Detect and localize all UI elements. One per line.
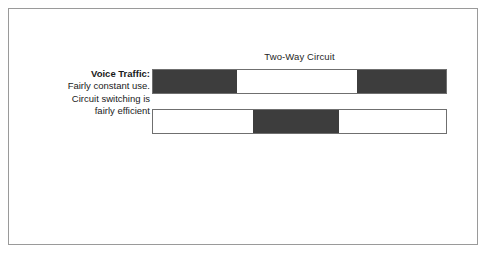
voice-traffic-line-3: fairly efficient [25,105,150,117]
voice-circuit-bar-direction-1 [152,69,447,94]
figure-frame: Two-Way Circuit Voice Traffic: Fairly co… [8,8,478,245]
voice-circuit-heading: Two-Way Circuit [152,51,447,62]
voice-traffic-title: Voice Traffic: [25,68,150,80]
voice-circuit-bar-direction-2 [152,109,447,134]
busy-segment [357,70,446,93]
voice-traffic-panel: Two-Way Circuit Voice Traffic: Fairly co… [9,25,477,125]
voice-traffic-line-2: Circuit switching is [25,93,150,105]
data-traffic-panel: Two-Way Circuit Data Traffic: Short burs… [9,135,477,235]
voice-traffic-line-1: Fairly constant use. [25,80,150,92]
busy-segment [253,110,339,133]
circuit-utilization-figure: Two-Way Circuit Voice Traffic: Fairly co… [0,0,487,254]
busy-segment [153,70,237,93]
voice-traffic-label: Voice Traffic: Fairly constant use. Circ… [25,68,150,118]
